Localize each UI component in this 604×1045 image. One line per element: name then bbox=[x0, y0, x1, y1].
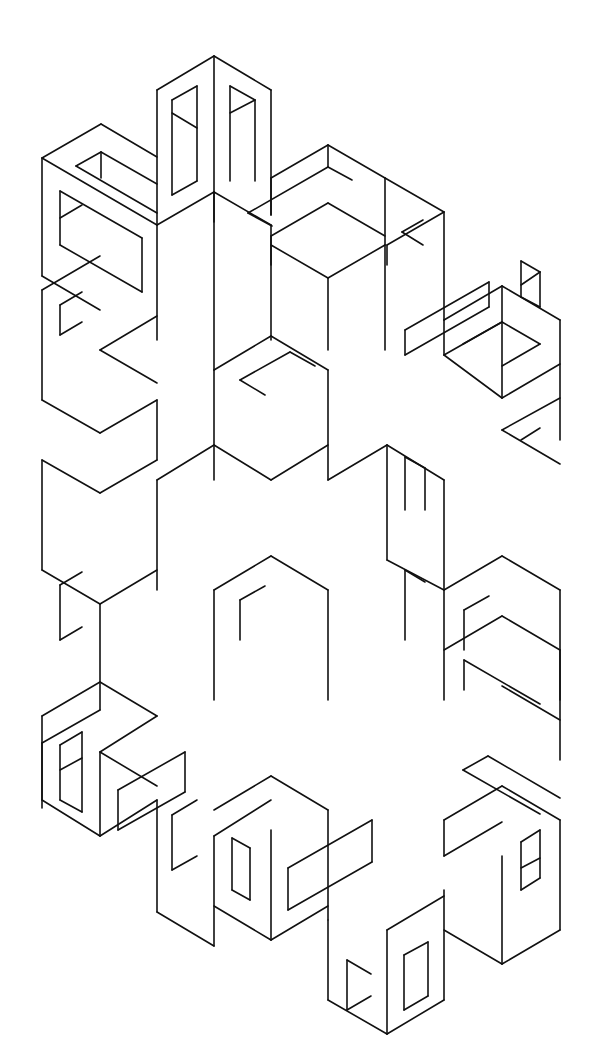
line-segment bbox=[404, 942, 428, 955]
line-segment bbox=[100, 316, 157, 350]
line-segment bbox=[101, 152, 157, 184]
line-segment bbox=[214, 445, 271, 480]
line-segment bbox=[76, 166, 157, 213]
line-segment bbox=[232, 838, 250, 848]
line-segment bbox=[385, 178, 444, 212]
line-segment bbox=[271, 245, 328, 278]
line-segment bbox=[271, 445, 328, 480]
line-segment bbox=[118, 752, 185, 790]
line-segment bbox=[271, 336, 328, 370]
line-segment bbox=[60, 627, 82, 640]
line-segment bbox=[240, 586, 265, 600]
line-segment bbox=[405, 457, 425, 468]
line-segment bbox=[100, 716, 157, 752]
line-segment bbox=[402, 232, 423, 245]
line-segment bbox=[347, 960, 371, 974]
line-segment bbox=[42, 682, 100, 716]
line-segment bbox=[502, 930, 560, 964]
line-segment bbox=[157, 912, 214, 946]
line-segment bbox=[100, 460, 157, 493]
line-segment bbox=[271, 776, 328, 810]
line-segment bbox=[521, 878, 540, 890]
line-segment bbox=[60, 292, 82, 305]
line-segment bbox=[271, 203, 328, 236]
line-segment bbox=[502, 686, 560, 720]
line-segment bbox=[172, 181, 197, 195]
line-segment bbox=[328, 245, 385, 278]
line-segment bbox=[100, 800, 157, 836]
line-segment bbox=[502, 430, 560, 464]
line-segment bbox=[521, 297, 540, 307]
line-segment bbox=[100, 682, 157, 716]
line-segment bbox=[404, 996, 428, 1010]
line-segment bbox=[101, 124, 157, 157]
line-segment bbox=[464, 596, 489, 610]
line-segment bbox=[502, 616, 560, 650]
line-segment bbox=[464, 660, 540, 704]
line-segment bbox=[42, 124, 101, 158]
line-segment bbox=[405, 282, 489, 330]
line-segment bbox=[100, 350, 157, 383]
line-segment bbox=[328, 145, 385, 178]
line-segment bbox=[521, 261, 540, 272]
line-segment bbox=[60, 800, 82, 812]
line-segment bbox=[42, 256, 100, 290]
line-segment bbox=[214, 906, 271, 940]
line-segment bbox=[488, 756, 560, 798]
line-segment bbox=[118, 792, 185, 830]
line-segment bbox=[60, 322, 82, 335]
isometric-blocks-illustration bbox=[0, 0, 604, 1045]
line-segment bbox=[271, 556, 328, 590]
line-segment bbox=[76, 152, 101, 166]
line-segment bbox=[521, 428, 540, 440]
line-segment bbox=[248, 167, 328, 213]
line-segment bbox=[172, 800, 197, 815]
line-segment bbox=[463, 756, 488, 770]
line-segment bbox=[157, 56, 214, 90]
line-segment bbox=[240, 352, 290, 380]
line-segment bbox=[271, 906, 328, 940]
line-segment bbox=[157, 192, 214, 225]
line-segment bbox=[60, 245, 142, 292]
line-segment bbox=[60, 205, 82, 218]
line-segment bbox=[463, 770, 540, 814]
line-segment bbox=[328, 445, 387, 480]
line-segment bbox=[214, 336, 271, 370]
line-segment bbox=[444, 822, 502, 856]
line-segment bbox=[521, 830, 540, 842]
line-segment bbox=[42, 460, 100, 493]
line-segment bbox=[60, 732, 82, 745]
line-segment bbox=[502, 344, 540, 366]
line-segment bbox=[240, 380, 265, 395]
line-segment bbox=[42, 570, 100, 604]
line-segment bbox=[502, 556, 560, 590]
line-segment bbox=[100, 752, 157, 786]
line-segment bbox=[42, 400, 100, 433]
line-segment bbox=[60, 572, 82, 585]
line-segment bbox=[444, 355, 502, 398]
line-segment bbox=[405, 570, 425, 582]
line-segment bbox=[157, 445, 214, 480]
line-segment bbox=[502, 364, 560, 398]
line-segment bbox=[328, 167, 352, 180]
line-segment bbox=[502, 322, 540, 344]
line-segment bbox=[444, 930, 502, 964]
line-segment bbox=[42, 276, 100, 310]
line-segment bbox=[172, 856, 197, 870]
line-segment bbox=[444, 786, 502, 820]
line-segment bbox=[288, 862, 372, 910]
line-segment bbox=[502, 786, 560, 820]
line-segment bbox=[387, 560, 444, 590]
line-art-group bbox=[42, 56, 560, 1034]
line-segment bbox=[444, 556, 502, 590]
line-segment bbox=[347, 996, 371, 1010]
line-segment bbox=[100, 400, 157, 433]
line-segment bbox=[328, 203, 385, 236]
line-segment bbox=[172, 86, 197, 100]
line-segment bbox=[387, 896, 444, 930]
line-segment bbox=[288, 820, 372, 868]
line-segment bbox=[230, 100, 255, 113]
line-segment bbox=[521, 272, 540, 285]
line-segment bbox=[328, 1000, 387, 1034]
line-segment bbox=[232, 890, 250, 900]
